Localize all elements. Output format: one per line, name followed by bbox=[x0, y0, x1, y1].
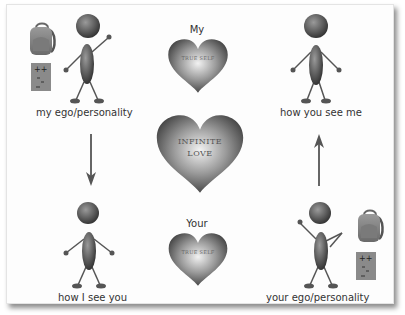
score-card-icon: ++ bbox=[31, 63, 51, 91]
stick-figure-me bbox=[60, 12, 120, 102]
heart-my-true-self bbox=[167, 38, 229, 94]
heart-title-your: Your bbox=[167, 218, 227, 229]
svg-text:++: ++ bbox=[34, 65, 47, 74]
heart-title-my: My bbox=[167, 24, 227, 35]
arrow-down-icon bbox=[86, 134, 96, 186]
backpack-icon bbox=[355, 207, 385, 243]
arrow-up-icon bbox=[314, 134, 324, 186]
heart-text-true-self-top: TRUE SELF bbox=[167, 55, 229, 61]
heart-text-true-self-bottom: TRUE SELF bbox=[167, 249, 229, 255]
score-card-icon: ++ bbox=[356, 252, 376, 280]
stick-figure-seen-by-me bbox=[60, 201, 120, 289]
stick-figure-you bbox=[292, 201, 352, 289]
label-how-you-see-me: how you see me bbox=[280, 107, 362, 118]
heart-text-love: LOVE bbox=[155, 149, 245, 158]
label-your-ego-personality: your ego/personality bbox=[266, 292, 369, 303]
heart-text-infinite: INFINITE bbox=[155, 137, 245, 146]
backpack-icon bbox=[27, 20, 57, 56]
heart-your-true-self bbox=[167, 232, 229, 287]
label-my-ego-personality: my ego/personality bbox=[36, 107, 133, 118]
label-how-i-see-you: how I see you bbox=[58, 292, 127, 303]
svg-text:++: ++ bbox=[359, 254, 372, 263]
stick-figure-seen-by-you bbox=[287, 12, 347, 102]
